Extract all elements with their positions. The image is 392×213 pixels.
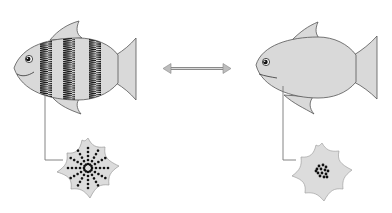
dorsal-fin — [50, 21, 82, 40]
zigzag-stripes — [40, 36, 101, 102]
fish-body — [256, 37, 356, 98]
tail-fin — [116, 38, 136, 100]
chromatophore-dispersed — [57, 138, 119, 198]
diagram-canvas — [0, 0, 392, 213]
tail-fin — [354, 36, 377, 99]
plain-fish — [256, 22, 377, 114]
eye-icon — [262, 58, 269, 65]
striped-fish — [14, 21, 136, 114]
chromatophore-aggregated — [292, 143, 352, 201]
eye-icon — [25, 55, 32, 62]
double-headed-arrow-icon — [163, 64, 231, 74]
